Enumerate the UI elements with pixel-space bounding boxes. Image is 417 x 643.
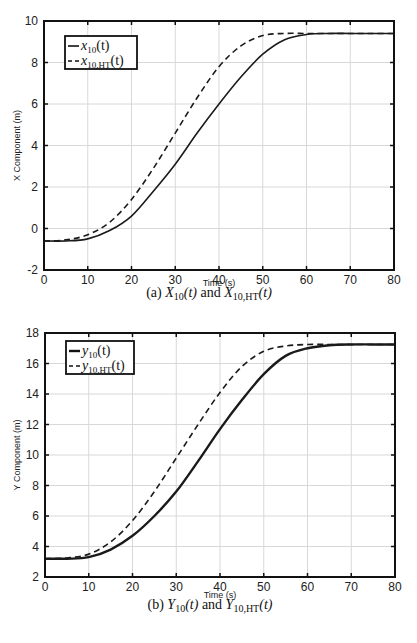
x-tick-label: 20 [126, 580, 140, 594]
x-tick-label: 70 [345, 580, 359, 594]
x-tick-label: 80 [387, 273, 401, 287]
x-tick-label: 60 [300, 273, 314, 287]
y-tick-label: 6 [32, 509, 39, 523]
y-tick-label: 10 [25, 14, 39, 28]
y-tick-label: 12 [26, 418, 40, 432]
x-tick-label: 80 [388, 580, 402, 594]
y-tick-label: 8 [32, 479, 39, 493]
y-tick-label: -2 [27, 263, 38, 277]
y-axis-label: X Component (m) [12, 110, 22, 181]
y-tick-label: 10 [26, 448, 40, 462]
y-tick-label: 4 [32, 540, 39, 554]
legend: y10(t)y10,HT(t) [66, 341, 134, 375]
x-tick-label: 70 [344, 273, 358, 287]
y-tick-label: 2 [32, 570, 39, 584]
x-tick-label: 0 [41, 273, 48, 287]
figure-caption: (a) X10(t) and X10,HT(t) [146, 285, 272, 302]
y-tick-label: 18 [26, 326, 40, 340]
figure: 01020304050607080-20246810Time (s)X Comp… [0, 0, 417, 643]
x-tick-label: 50 [257, 580, 271, 594]
y-tick-label: 14 [26, 387, 40, 401]
y-tick-label: 6 [31, 97, 38, 111]
legend: x10(t)x10,HT(t) [65, 36, 137, 70]
x-tick-label: 10 [82, 580, 96, 594]
x-tick-label: 20 [125, 273, 139, 287]
x-tick-label: 10 [81, 273, 95, 287]
chart-y-component: 0102030405060708024681012141618Time (s)Y… [12, 326, 402, 614]
figure-caption: (b) Y10(t) and Y10,HT(t) [148, 597, 273, 614]
x-tick-label: 60 [301, 580, 315, 594]
x-tick-label: 30 [170, 580, 184, 594]
y-tick-label: 16 [26, 357, 40, 371]
y-tick-label: 2 [31, 180, 38, 194]
y-tick-label: 4 [31, 139, 38, 153]
chart-x-component: 01020304050607080-20246810Time (s)X Comp… [12, 14, 401, 302]
y-tick-label: 0 [31, 222, 38, 236]
x-tick-label: 0 [42, 580, 49, 594]
y-axis-label: Y Component (m) [12, 420, 22, 491]
y-tick-label: 8 [31, 56, 38, 70]
